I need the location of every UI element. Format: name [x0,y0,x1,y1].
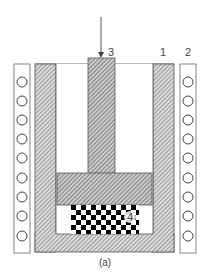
label-punch: 3 [108,46,114,58]
press-diagram: 4 3 1 2 (a) [0,0,221,276]
label-coil: 2 [185,46,191,58]
label-die: 1 [160,46,166,58]
force-arrow-icon [98,17,104,58]
figure-caption: (a) [99,257,111,268]
induction-coil-right [180,64,196,253]
induction-coil-left [14,64,30,253]
label-sample: 4 [127,211,133,223]
